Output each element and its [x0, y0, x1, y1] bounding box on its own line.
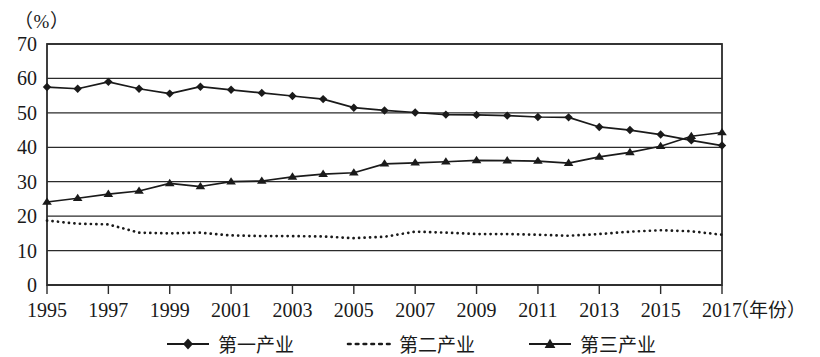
- x-tick-label-2009: 2009: [457, 299, 497, 321]
- y-tick-label-60: 60: [17, 67, 37, 89]
- y-tick-label-20: 20: [17, 205, 37, 227]
- marker-triangle-2011: [533, 156, 543, 163]
- series-0-第一产业: [43, 78, 726, 150]
- x-tick-label-2007: 2007: [395, 299, 435, 321]
- legend-label-1: 第二产业: [399, 330, 475, 357]
- line-chart-plot: 0102030405060701995199719992001200320052…: [0, 0, 820, 330]
- y-tick-label-50: 50: [17, 102, 37, 124]
- y-tick-label-70: 70: [17, 33, 37, 55]
- legend-item-2: 第三产业: [527, 330, 656, 357]
- legend-swatch-diamond-line: [165, 336, 211, 352]
- y-tick-label-10: 10: [17, 240, 37, 262]
- x-tick-label-2013: 2013: [579, 299, 619, 321]
- marker-triangle-2017: [717, 128, 727, 135]
- legend-swatch-triangle-line: [527, 336, 573, 352]
- marker-diamond-2003: [288, 92, 296, 100]
- x-tick-label-1995: 1995: [27, 299, 67, 321]
- marker-diamond-2002: [258, 89, 266, 97]
- legend-label-0: 第一产业: [218, 330, 294, 357]
- marker-diamond-2008: [442, 110, 450, 118]
- x-tick-label-2003: 2003: [272, 299, 312, 321]
- marker-diamond-2014: [626, 126, 634, 134]
- chart-figure: （%） 010203040506070199519971999200120032…: [0, 0, 820, 357]
- x-tick-label-2005: 2005: [334, 299, 374, 321]
- legend-label-2: 第三产业: [580, 330, 656, 357]
- x-axis-label: （年份）: [730, 300, 806, 321]
- marker-diamond-2001: [227, 86, 235, 94]
- marker-diamond-2011: [534, 113, 542, 121]
- x-tick-label-1999: 1999: [150, 299, 190, 321]
- marker-diamond-2004: [319, 95, 327, 103]
- x-tick-label-2015: 2015: [641, 299, 681, 321]
- marker-diamond-1998: [135, 85, 143, 93]
- series-2-第三产业: [42, 128, 727, 205]
- marker-diamond-2013: [595, 123, 603, 131]
- marker-diamond-1995: [43, 83, 51, 91]
- marker-diamond-2012: [564, 113, 572, 121]
- x-tick-label-2011: 2011: [518, 299, 557, 321]
- series-1-第二产业: [47, 221, 722, 239]
- y-tick-label-30: 30: [17, 171, 37, 193]
- series-line-1: [47, 221, 722, 239]
- legend-swatch-dotted-line: [346, 336, 392, 352]
- series-line-2: [47, 132, 722, 202]
- legend-item-0: 第一产业: [165, 330, 294, 357]
- marker-diamond-2015: [656, 130, 664, 138]
- marker-diamond-2009: [472, 111, 480, 119]
- marker-diamond-1996: [73, 85, 81, 93]
- marker-diamond-2017: [718, 141, 726, 149]
- marker-triangle-1999: [165, 179, 175, 186]
- y-tick-label-0: 0: [27, 274, 37, 296]
- x-tick-label-2001: 2001: [211, 299, 251, 321]
- chart-legend: 第一产业 第二产业 第三产业: [0, 330, 820, 357]
- marker-triangle-2009: [472, 156, 482, 163]
- marker-diamond-2007: [411, 108, 419, 116]
- marker-diamond-1999: [166, 89, 174, 97]
- y-tick-label-40: 40: [17, 136, 37, 158]
- marker-diamond-2005: [350, 103, 358, 111]
- legend-item-1: 第二产业: [346, 330, 475, 357]
- x-tick-label-1997: 1997: [88, 299, 128, 321]
- marker-diamond-2000: [196, 82, 204, 90]
